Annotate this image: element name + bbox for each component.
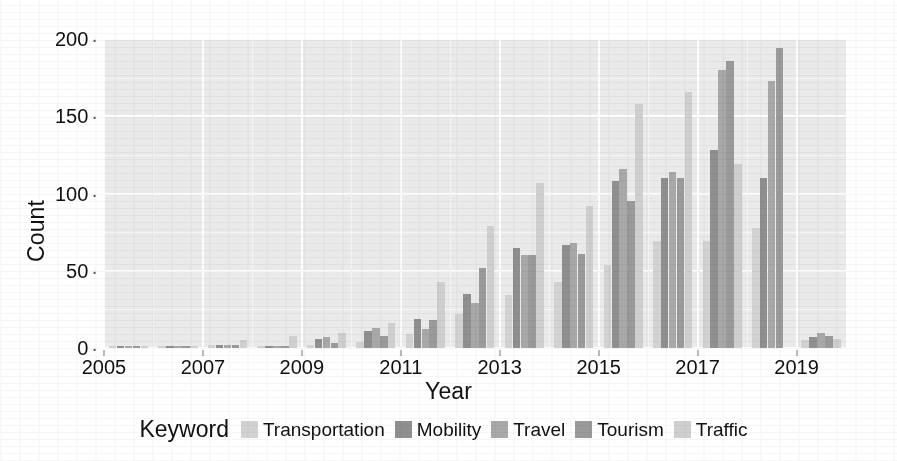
bar [536, 183, 544, 348]
bar [604, 265, 612, 348]
gridline-vertical [104, 39, 105, 348]
y-tick-label: 150· [42, 105, 98, 128]
y-tick-label: 100· [42, 182, 98, 205]
bar [455, 314, 463, 348]
bar [825, 336, 833, 348]
bar [817, 333, 825, 348]
bar [356, 342, 364, 348]
bar [463, 294, 471, 348]
bar [414, 319, 422, 348]
x-tick-label: 2017 [675, 356, 720, 379]
bar [612, 181, 620, 348]
bar [768, 81, 776, 348]
bar [109, 346, 117, 348]
gridline-vertical [697, 39, 699, 348]
bar [315, 339, 323, 348]
bar [685, 92, 693, 348]
bar [117, 346, 125, 348]
legend-swatch-icon [575, 421, 592, 438]
x-tick-label: 2011 [379, 356, 422, 379]
bar [809, 337, 817, 348]
y-tick-label: 50· [42, 259, 98, 282]
bar [133, 346, 141, 348]
legend-item-label: Tourism [597, 419, 664, 441]
bar [232, 345, 240, 348]
gridline-vertical-minor [153, 39, 154, 348]
bar [619, 169, 627, 348]
bar [760, 178, 768, 348]
bar [182, 346, 190, 348]
bar [635, 104, 643, 348]
x-tick-label: 2009 [280, 356, 325, 379]
gridline-vertical [499, 39, 501, 348]
legend-item[interactable]: Traffic [674, 419, 748, 441]
bar [158, 346, 166, 348]
x-tick-label: 2005 [82, 356, 127, 379]
bar [653, 241, 661, 348]
gridline-vertical-minor [351, 39, 352, 348]
x-tick-label: 2007 [181, 356, 226, 379]
bar [471, 303, 479, 348]
bar [669, 172, 677, 348]
bar [734, 164, 742, 348]
bar [661, 178, 669, 348]
legend-swatch-icon [395, 421, 412, 438]
bar [528, 255, 536, 348]
bar [505, 295, 513, 348]
bar [718, 70, 726, 348]
bar [437, 282, 445, 348]
bar [710, 150, 718, 348]
legend-item[interactable]: Transportation [241, 419, 385, 441]
gridline-vertical [598, 39, 600, 348]
bar [388, 323, 396, 348]
bar [190, 346, 198, 348]
x-axis-title: Year [0, 378, 897, 405]
gridline-horizontal-minor [104, 155, 846, 156]
bar [257, 346, 265, 348]
bar [364, 331, 372, 348]
bar [801, 340, 809, 348]
gridline-vertical [202, 39, 204, 348]
bar [141, 346, 149, 348]
bar [513, 248, 521, 348]
bar [703, 241, 711, 348]
legend-swatch-icon [674, 421, 691, 438]
bar [562, 245, 570, 349]
legend-item[interactable]: Tourism [575, 419, 664, 441]
gridline-horizontal [104, 39, 846, 40]
x-tick-label: 2015 [576, 356, 621, 379]
bar [307, 345, 315, 348]
chart-legend: Keyword TransportationMobilityTravelTour… [0, 416, 897, 443]
y-tick-label: 200· [42, 28, 98, 51]
bar [833, 339, 841, 348]
bar [380, 336, 388, 348]
gridline-vertical [400, 39, 402, 348]
bar [125, 346, 133, 348]
legend-item-label: Travel [513, 419, 565, 441]
plot-panel [104, 39, 846, 348]
legend-item[interactable]: Mobility [395, 419, 481, 441]
bar [281, 346, 289, 348]
gridline-vertical-minor [252, 39, 253, 348]
bar [166, 346, 174, 348]
bar [289, 336, 297, 348]
bar [726, 61, 734, 348]
bar [224, 345, 232, 348]
bar [429, 320, 437, 348]
gridline-vertical-minor [549, 39, 550, 348]
bar [372, 328, 380, 348]
legend-items: TransportationMobilityTravelTourismTraff… [241, 419, 758, 441]
gridline-vertical-minor [648, 39, 649, 348]
legend-item-label: Transportation [263, 419, 385, 441]
bar [174, 346, 182, 348]
bar [422, 329, 430, 348]
gridline-horizontal-minor [104, 78, 846, 79]
bar-chart: Count 0·50·100·150·200· 2005200720092011… [0, 0, 897, 461]
gridline-horizontal [104, 115, 846, 117]
bar [479, 268, 487, 348]
legend-item-label: Mobility [417, 419, 481, 441]
bar [677, 178, 685, 348]
bar [240, 340, 248, 348]
bar [265, 346, 273, 348]
legend-item[interactable]: Travel [491, 419, 565, 441]
